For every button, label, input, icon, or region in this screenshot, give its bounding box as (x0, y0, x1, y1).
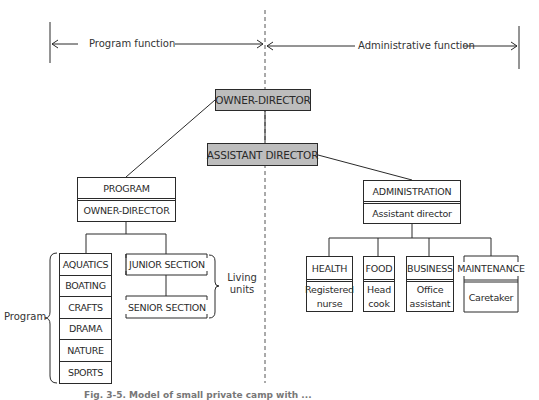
administration-head: Assistant director (364, 204, 460, 223)
figure-caption: Fig. 3-5. Model of small private camp wi… (84, 390, 312, 400)
department-name: MAINTENANCE (457, 263, 525, 274)
owner-director-label: OWNER-DIRECTOR (215, 94, 310, 106)
administration-box: ADMINISTRATION Assistant director (363, 180, 461, 224)
department-maintenance-staff: Caretaker (464, 283, 518, 312)
department-health: HEALTH Registered nurse (306, 256, 353, 312)
assistant-director-label: ASSISTANT DIRECTOR (207, 149, 318, 161)
department-business: BUSINESS Office assistant (406, 256, 454, 312)
activity-sports: SPORTS (60, 362, 111, 384)
program-head: OWNER-DIRECTOR (78, 201, 175, 221)
administration-title: ADMINISTRATION (364, 181, 460, 204)
senior-section-box: SENIOR SECTION (126, 296, 208, 318)
activity-crafts: CRAFTS (60, 297, 111, 319)
department-name: FOOD (364, 257, 394, 282)
administrative-function-label: Administrative function (358, 40, 475, 51)
program-activities-list: AQUATICS BOATING CRAFTS DRAMA NATURE SPO… (59, 253, 112, 384)
senior-section-label: SENIOR SECTION (128, 302, 206, 313)
activity-nature: NATURE (60, 340, 111, 362)
program-title: PROGRAM (78, 178, 175, 201)
department-staff: Head cook (364, 282, 394, 311)
department-staff: Office assistant (407, 282, 453, 311)
program-function-label: Program function (89, 38, 175, 49)
activity-drama: DRAMA (60, 319, 111, 341)
department-name: BUSINESS (407, 257, 453, 282)
department-staff: Caretaker (469, 292, 514, 303)
department-name: HEALTH (307, 257, 352, 282)
junior-section-label: JUNIOR SECTION (129, 259, 205, 270)
department-maintenance: MAINTENANCE (458, 256, 524, 280)
assistant-director-box: ASSISTANT DIRECTOR (207, 143, 318, 166)
department-staff: Registered nurse (307, 282, 352, 311)
program-group-label: Program (4, 311, 46, 322)
junior-section-box: JUNIOR SECTION (126, 254, 208, 275)
living-units-label: Living units (222, 272, 262, 296)
department-food: FOOD Head cook (363, 256, 395, 312)
owner-director-box: OWNER-DIRECTOR (215, 89, 311, 111)
program-box: PROGRAM OWNER-DIRECTOR (77, 177, 176, 222)
activity-boating: BOATING (60, 276, 111, 298)
activity-aquatics: AQUATICS (60, 254, 111, 276)
